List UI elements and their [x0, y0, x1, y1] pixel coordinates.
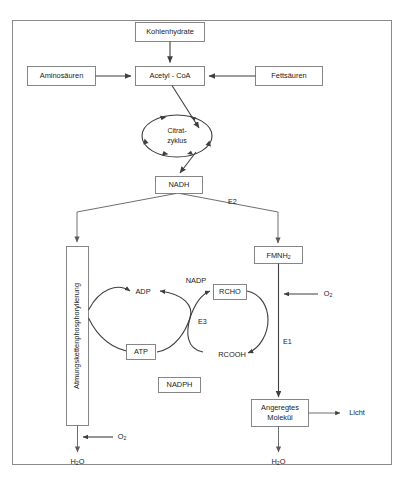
enzyme-label-e3: E3	[198, 317, 207, 326]
node-aminosaeuren-label: Aminosäuren	[40, 71, 84, 80]
node-nadp-label: NADP	[186, 276, 207, 285]
node-licht-label: Licht	[349, 408, 365, 417]
node-acetyl-coa-label: Acetyl - CoA	[149, 71, 190, 80]
node-angeregtes-molekuel-label-line1: Angeregtes	[261, 403, 299, 412]
node-kohlenhydrate-label: Kohlenhydrate	[146, 27, 194, 36]
metabolic-pathway-diagram: Kohlenhydrate Aminosäuren Fettsäuren Ace…	[0, 0, 404, 487]
node-nadph-label: NADPH	[167, 380, 193, 389]
node-atmungskettenphosphorylierung-label: Atmungskettenphosphorylierung	[72, 283, 81, 389]
node-adp-label: ADP	[135, 287, 150, 296]
node-nadh-label: NADH	[169, 180, 190, 189]
citratzyklus-label-line2: zyklus	[167, 137, 187, 145]
enzyme-label-e2: E2	[228, 197, 237, 206]
node-rcooh-label: RCOOH	[218, 350, 246, 359]
node-angeregtes-molekuel-label-line2: Molekül	[267, 413, 293, 422]
enzyme-label-e1: E1	[283, 337, 292, 346]
node-rcho-label: RCHO	[219, 287, 241, 296]
node-fettsaeuren-label: Fettsäuren	[271, 71, 306, 80]
node-fmnh2-label: FMNH2	[266, 250, 290, 259]
citratzyklus-label-line1: Citrat-	[167, 127, 187, 134]
node-atp-label: ATP	[134, 347, 148, 356]
diagram-canvas: Kohlenhydrate Aminosäuren Fettsäuren Ace…	[0, 0, 404, 487]
